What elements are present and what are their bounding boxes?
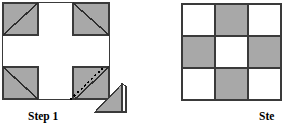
corner-square-top-right [73, 3, 109, 35]
grid-cell-r3c1 [182, 68, 215, 100]
corner-square-bottom-left [3, 67, 38, 99]
grid-cell-r3c3 [248, 68, 281, 100]
step1-panel [3, 3, 127, 113]
step2-panel [182, 4, 281, 100]
grid-cell-r3c2 [215, 68, 248, 100]
grid-cell-r2c1 [182, 36, 215, 68]
grid-cell-r1c2 [215, 4, 248, 36]
step2-caption: Ste [259, 110, 274, 122]
corner-square-top-left [3, 3, 38, 35]
grid-cell-r1c3 [248, 4, 281, 36]
figure-root: Step 1 Ste [0, 0, 285, 123]
detached-cut-triangle-flap [122, 84, 126, 112]
figure-diagram [0, 0, 285, 123]
grid-cell-r1c1 [182, 4, 215, 36]
grid-cell-r2c3 [248, 36, 281, 68]
grid-cell-r2c2 [215, 36, 248, 68]
corner-square-bottom-right [71, 66, 109, 99]
step1-caption: Step 1 [28, 110, 58, 122]
